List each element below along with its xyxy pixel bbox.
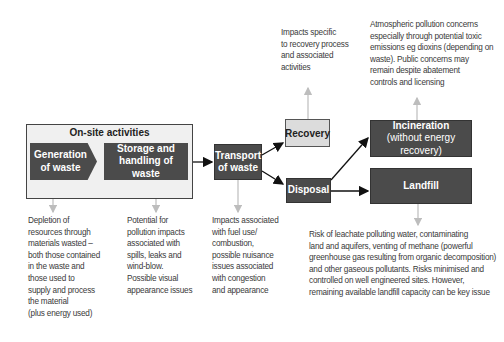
recovery-box: Recovery — [285, 119, 330, 147]
incineration-box: Incineration (without energy recovery) — [370, 120, 472, 157]
landfill-label: Landfill — [403, 180, 439, 193]
incineration-sublabel: (without energy recovery) — [371, 132, 471, 157]
landfill-note: Risk of leachate polluting water, contam… — [309, 229, 496, 299]
note-line: spills, leaks and — [127, 250, 192, 262]
disposal-box: Disposal — [286, 178, 331, 203]
generation-line2: of waste — [40, 162, 80, 175]
note-line: and other gaseous pollutants. Risks mini… — [309, 264, 496, 276]
note-line: pollution impacts — [127, 227, 192, 239]
storage-handling-box: Storage and handling of waste — [104, 143, 188, 180]
disposal-label: Disposal — [288, 184, 330, 197]
note-line: to recovery process — [281, 39, 349, 51]
onsite-activities-title: On-site activities — [27, 127, 192, 138]
note-line: in the waste and — [28, 261, 100, 273]
note-line: controls and licensing — [370, 77, 493, 89]
recovery-label: Recovery — [285, 128, 330, 139]
storage-line1: Storage and — [117, 143, 175, 156]
recovery-note: Impacts specific to recovery process and… — [281, 27, 349, 73]
generation-of-waste-box: Generation of waste — [30, 143, 97, 180]
note-line: associated with — [127, 238, 192, 250]
note-line: supply and process — [28, 285, 100, 297]
note-line: and associated — [281, 50, 349, 62]
transport-note: Impacts associated with fuel use/ combus… — [212, 215, 278, 296]
storage-note: Potential for pollution impacts associat… — [127, 215, 192, 296]
note-line: materials wasted – — [28, 238, 100, 250]
note-line: with congestion — [212, 273, 278, 285]
note-line: issues associated — [212, 261, 278, 273]
transport-line2: of waste — [218, 162, 258, 175]
note-line: the material — [28, 296, 100, 308]
note-line: controlled on well engineered sites. How… — [309, 275, 496, 287]
note-line: (plus energy used) — [28, 308, 100, 320]
note-line: land and aquifers, venting of methane (p… — [309, 241, 496, 253]
note-line: combustion, — [212, 238, 278, 250]
note-line: Depletion of — [28, 215, 100, 227]
generation-note: Depletion of resources through materials… — [28, 215, 100, 319]
note-line: Atmospheric pollution concerns — [370, 19, 493, 31]
note-line: waste). Public concerns may — [370, 54, 493, 66]
incineration-note: Atmospheric pollution concerns especiall… — [370, 19, 493, 89]
note-line: and appearance — [212, 285, 278, 297]
note-line: those used to — [28, 273, 100, 285]
note-line: with fuel use/ — [212, 227, 278, 239]
note-line: activities — [281, 62, 349, 74]
note-line: emissions eg dioxins (depending on — [370, 42, 493, 54]
note-line: wind-blow. — [127, 261, 192, 273]
landfill-box: Landfill — [370, 168, 472, 204]
note-line: remaining available landfill capacity ca… — [309, 287, 496, 299]
incineration-label: Incineration — [393, 120, 450, 133]
note-line: appearance issues — [127, 285, 192, 297]
note-line: resources through — [28, 227, 100, 239]
note-line: Impacts specific — [281, 27, 349, 39]
storage-line2: handling of waste — [104, 155, 188, 180]
generation-line1: Generation — [34, 149, 87, 162]
note-line: remain despite abatement — [370, 65, 493, 77]
note-line: Possible visual — [127, 273, 192, 285]
transport-of-waste-box: Transport of waste — [214, 144, 262, 180]
note-line: possible nuisance — [212, 250, 278, 262]
note-line: both those contained — [28, 250, 100, 262]
note-line: greenhouse gas resulting from organic de… — [309, 252, 496, 264]
note-line: Risk of leachate polluting water, contam… — [309, 229, 496, 241]
note-line: especially through potential toxic — [370, 31, 493, 43]
note-line: Potential for — [127, 215, 192, 227]
transport-line1: Transport — [215, 150, 261, 163]
note-line: Impacts associated — [212, 215, 278, 227]
